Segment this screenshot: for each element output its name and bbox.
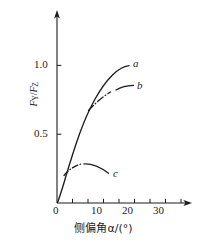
y-axis-title-slash: /	[28, 92, 39, 95]
y-tick-label-0-5: 0.5	[34, 127, 48, 139]
x-tick-label-30: 30	[153, 204, 164, 216]
curve-label-c: c	[113, 167, 118, 179]
curve-label-b: b	[137, 79, 143, 91]
curve-label-a: a	[133, 57, 139, 69]
curve-b-dashdot-segment	[89, 92, 111, 111]
x-tick-label-10: 10	[91, 204, 102, 216]
y-axis-title-den-subscript: Z	[32, 82, 40, 86]
x-axis-title: 侧偏角α/(°)	[0, 219, 207, 235]
y-axis-title-denominator: F	[28, 86, 39, 92]
curve-a	[58, 66, 130, 203]
y-axis-title: FY/FZ	[28, 66, 41, 122]
curve-b-solid-upper	[116, 85, 134, 90]
x-axis-ticks	[73, 199, 182, 203]
x-tick-label-0: 0	[53, 204, 59, 216]
y-axis-ticks	[57, 65, 61, 134]
x-tick-label-20: 20	[122, 204, 133, 216]
chart-figure: 0 10 20 30 0.5 1.0 a b c FY/FZ 侧偏角α/(°)	[0, 0, 207, 242]
y-axis-title-numerator: F	[28, 100, 39, 106]
curve-c-solid-tail	[84, 164, 109, 173]
y-axis-title-num-subscript: Y	[32, 95, 40, 100]
